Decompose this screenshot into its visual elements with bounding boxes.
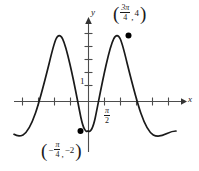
- x-axis-arrowhead: [181, 98, 187, 105]
- fraction-denominator: 2: [104, 116, 110, 125]
- fraction-pi-over-4: π 4: [54, 140, 60, 159]
- coordinate-separator: ,: [131, 13, 133, 23]
- sinusoid-curve: [14, 36, 176, 137]
- close-paren: ): [75, 143, 81, 159]
- fraction-numerator: 3π: [120, 3, 130, 13]
- x-axis-tick-label-pi-over-2: π 2: [104, 107, 110, 126]
- minimum-point-marker: [78, 128, 84, 134]
- maximum-point-label: ( 3π 4 , 4 ): [113, 4, 146, 23]
- fraction-denominator: 4: [54, 150, 60, 159]
- y-axis-label: y: [91, 8, 95, 17]
- graph-canvas: [0, 0, 199, 171]
- coordinate-pair: 3π 4 , 4: [119, 4, 140, 23]
- coordinate-separator: ,: [61, 150, 63, 160]
- fraction-numerator: π: [54, 140, 60, 150]
- fraction-numerator: π: [104, 106, 110, 116]
- fraction-3pi-over-4: 3π 4: [120, 3, 130, 22]
- x-coordinate-sign: −: [48, 146, 53, 155]
- minimum-point-label: ( − π 4 , −2 ): [41, 141, 82, 160]
- y-axis-tick-label-1: 1: [80, 77, 85, 86]
- x-axis-label: x: [188, 95, 192, 104]
- y-coordinate-value: 4: [135, 9, 140, 18]
- y-coordinate-value: −2: [65, 146, 75, 155]
- coordinate-pair: − π 4 , −2: [47, 141, 75, 160]
- trig-graph-figure: y x 1 π 2 ( 3π 4 , 4 ) ( − π 4: [0, 0, 199, 171]
- fraction-pi-over-2: π 2: [104, 106, 110, 125]
- fraction-denominator: 4: [120, 13, 130, 22]
- close-paren: ): [140, 6, 146, 22]
- maximum-point-marker: [126, 33, 132, 39]
- y-axis-arrowhead: [85, 17, 92, 24]
